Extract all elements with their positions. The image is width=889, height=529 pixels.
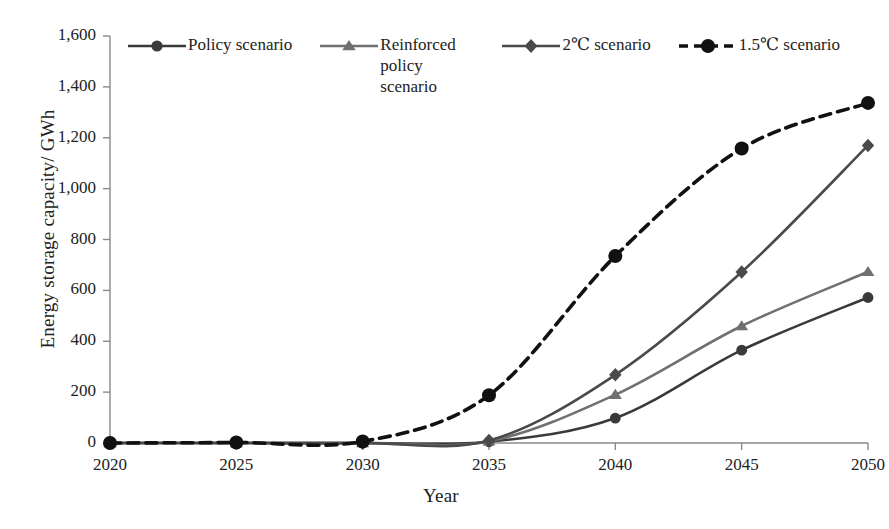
y-tick-label: 1,000 (30, 178, 96, 198)
series-1 (105, 292, 874, 448)
series-4 (103, 96, 875, 450)
data-point-marker (229, 435, 243, 449)
data-point-marker (736, 345, 747, 356)
y-tick-label: 800 (30, 229, 96, 249)
series-3 (104, 139, 874, 450)
data-point-marker (103, 436, 117, 450)
series-2 (104, 266, 875, 447)
data-point-marker (862, 266, 875, 276)
x-tick-label: 2035 (454, 455, 524, 475)
legend-marker-circle-icon (126, 35, 188, 57)
y-tick-label: 1,400 (30, 76, 96, 96)
x-tick-label: 2030 (328, 455, 398, 475)
x-tick-label: 2045 (707, 455, 777, 475)
data-point-marker (863, 292, 874, 303)
x-tick-label: 2020 (75, 455, 145, 475)
legend-label: 2℃ scenario (562, 34, 650, 55)
legend-marker-diamond-icon (500, 35, 562, 57)
y-tick-label: 0 (30, 432, 96, 452)
y-tick-label: 1,200 (30, 127, 96, 147)
data-point-marker (356, 434, 370, 448)
data-point-marker (608, 249, 622, 263)
legend-label: 1.5℃ scenario (739, 34, 840, 55)
legend-entry-1[interactable]: Policy scenario (126, 34, 292, 57)
y-tick-label: 1,600 (30, 25, 96, 45)
legend-label: Policy scenario (188, 34, 292, 55)
chart-legend: Policy scenarioReinforced policy scenari… (126, 34, 866, 88)
x-tick-label: 2050 (833, 455, 889, 475)
legend-marker-triangle-icon (318, 35, 380, 57)
y-tick-label: 600 (30, 279, 96, 299)
legend-marker-circle-icon (677, 35, 739, 57)
x-tick-label: 2040 (580, 455, 650, 475)
legend-entry-2[interactable]: Reinforced policy scenario (318, 34, 474, 97)
legend-entry-3[interactable]: 2℃ scenario (500, 34, 650, 57)
legend-label: Reinforced policy scenario (380, 34, 474, 97)
y-tick-label: 400 (30, 330, 96, 350)
data-point-marker (482, 388, 496, 402)
legend-entry-4[interactable]: 1.5℃ scenario (677, 34, 840, 57)
data-series-layer (103, 96, 875, 450)
data-point-marker (609, 368, 621, 382)
x-tick-label: 2025 (201, 455, 271, 475)
x-axis-title: Year (0, 485, 882, 507)
y-axis-ticks (103, 36, 110, 443)
data-point-marker (610, 413, 621, 424)
y-tick-label: 200 (30, 381, 96, 401)
data-point-marker (735, 141, 749, 155)
data-point-marker (861, 96, 875, 110)
